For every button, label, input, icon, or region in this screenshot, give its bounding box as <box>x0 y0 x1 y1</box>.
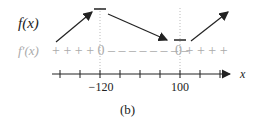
derivative-label: f′(x) <box>18 43 39 59</box>
sign-segment-positive-left: + + + + 0 <box>52 43 105 59</box>
decreasing-arrow <box>108 14 167 40</box>
increasing-arrow-2 <box>191 12 228 41</box>
function-label: f(x) <box>18 15 39 32</box>
increasing-arrow-1 <box>56 12 92 42</box>
caption: (b) <box>120 102 135 118</box>
tick-label-min: 100 <box>171 80 189 95</box>
axis-label-x: x <box>240 67 245 82</box>
tick-label-max: −120 <box>89 80 114 95</box>
sign-segment-positive-right: 0 + + + + <box>175 43 228 59</box>
